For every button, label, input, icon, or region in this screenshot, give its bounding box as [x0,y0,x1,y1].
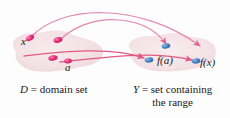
domain-caption-symbol: D [20,83,28,95]
domain-caption: D = domain set [20,83,88,96]
codomain-caption-equals: = [139,83,151,95]
codomain-caption: Y = set containing the range [133,83,212,108]
range-point-label-fa: f(a) [157,55,173,66]
codomain-caption-line1: set containing [151,83,212,95]
domain-caption-equals: = [28,83,40,95]
domain-caption-text: domain set [40,83,88,95]
domain-point-label-x: x [21,36,26,47]
domain-point-label-a: a [65,62,71,73]
codomain-caption-line2: the range [133,96,212,109]
range-point-label-fx: f(x) [200,57,215,68]
function-mapping-figure: x a f(a) f(x) D = domain set Y = set con… [0,0,230,118]
